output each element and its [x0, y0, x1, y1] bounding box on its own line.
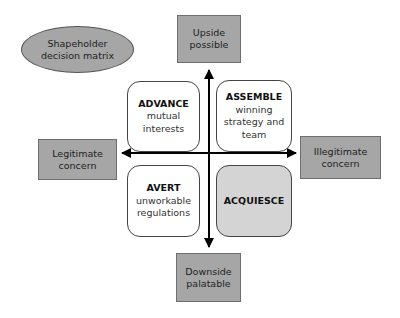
axis-bottom-line-2: palatable — [186, 278, 230, 290]
quadrant-line: unworkable — [136, 195, 191, 208]
quadrant-acquiesce: ACQUIESCE — [216, 165, 292, 237]
axis-label-top: Upside possible — [177, 15, 241, 63]
quadrant-line: interests — [143, 123, 184, 136]
quadrant-title: AVERT — [147, 182, 181, 195]
title-ellipse: Shapeholder decision matrix — [21, 26, 134, 73]
axis-top-line-2: possible — [190, 39, 229, 51]
quadrant-line: winning — [235, 104, 272, 117]
axis-left-line-1: Legitimate — [52, 148, 103, 160]
quadrant-line: team — [242, 129, 267, 142]
axis-left-line-2: concern — [59, 160, 97, 172]
quadrant-advance: ADVANCE mutual interests — [127, 81, 200, 152]
axis-bottom-line-1: Downside — [185, 266, 231, 278]
quadrant-title: ACQUIESCE — [224, 195, 284, 208]
axis-right-line-2: concern — [322, 158, 360, 170]
axis-label-left: Legitimate concern — [38, 139, 117, 180]
quadrant-line: strategy and — [224, 116, 285, 129]
quadrant-line: mutual — [147, 110, 180, 123]
quadrant-avert: AVERT unworkable regulations — [127, 165, 200, 237]
quadrant-assemble: ASSEMBLE winning strategy and team — [216, 80, 292, 152]
axis-label-right: Illegitimate concern — [300, 136, 381, 179]
axis-label-bottom: Downside palatable — [176, 253, 241, 302]
quadrant-line: regulations — [137, 207, 190, 220]
quadrant-title: ASSEMBLE — [226, 91, 282, 104]
title-line-2: decision matrix — [41, 50, 114, 62]
axis-top-line-1: Upside — [193, 27, 225, 39]
quadrant-title: ADVANCE — [138, 98, 189, 111]
axis-right-line-1: Illegitimate — [314, 146, 368, 158]
title-line-1: Shapeholder — [47, 38, 107, 50]
